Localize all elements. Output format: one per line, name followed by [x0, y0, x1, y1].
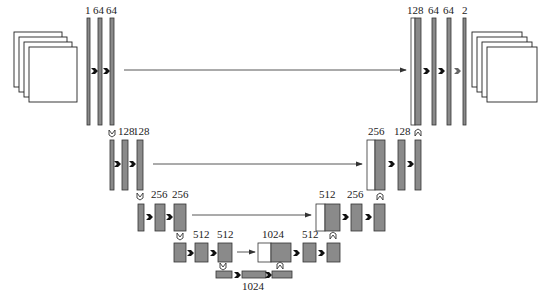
conv-arrow-icon — [407, 161, 414, 167]
feature-map — [122, 140, 128, 190]
feature-map — [138, 204, 144, 231]
label-64b: 64 — [106, 4, 118, 16]
label-1024-bottom: 1024 — [242, 280, 265, 292]
copied-map — [258, 243, 271, 262]
feature-map — [87, 18, 90, 125]
feature-map — [447, 18, 451, 125]
level-3-decoder: 512 256 — [316, 188, 385, 231]
level-1-decoder: 128 64 64 2 — [407, 4, 468, 125]
feature-map — [415, 140, 421, 190]
feature-map — [272, 271, 292, 278]
label-256b: 256 — [172, 188, 189, 200]
feature-map — [375, 140, 385, 190]
copied-map — [316, 204, 325, 231]
up-conv-icon — [330, 232, 336, 239]
feature-map — [398, 140, 405, 190]
feature-map — [110, 18, 114, 125]
conv-arrow-icon — [129, 161, 136, 167]
conv-arrow-icon — [187, 250, 194, 256]
conv-arrow-icon — [365, 214, 372, 220]
label-64a: 64 — [93, 4, 105, 16]
feature-map — [110, 140, 114, 190]
up-conv-icon — [415, 129, 421, 136]
feature-map — [327, 243, 340, 262]
label-512c: 512 — [302, 228, 319, 240]
level-1-encoder: 1 64 64 — [85, 4, 118, 125]
conv-arrow-icon — [166, 214, 173, 220]
bottleneck: 1024 — [216, 271, 292, 292]
input-image-stack — [14, 32, 77, 102]
conv-arrow-icon — [103, 68, 110, 74]
label-1: 1 — [85, 4, 91, 16]
conv-arrow-icon — [210, 250, 217, 256]
final-conv-arrow-icon — [454, 68, 461, 74]
feature-map — [174, 243, 186, 262]
feature-map — [155, 204, 165, 231]
max-pool-down-icon — [220, 263, 226, 270]
level-3-encoder: 256 256 — [138, 188, 189, 231]
feature-map — [174, 204, 186, 231]
label-128c: 128 — [394, 125, 411, 137]
label-512: 512 — [319, 188, 336, 200]
label-128b: 128 — [133, 125, 150, 137]
feature-map — [271, 243, 291, 262]
feature-map — [432, 18, 436, 125]
feature-map — [303, 243, 316, 262]
label-64c: 64 — [428, 4, 440, 16]
label-1024: 1024 — [262, 228, 285, 240]
conv-arrow-icon — [342, 214, 349, 220]
copied-map — [367, 140, 375, 190]
output-map-stack — [472, 32, 537, 102]
conv-arrow-icon — [293, 250, 300, 256]
feature-map — [218, 243, 232, 262]
feature-map — [374, 204, 385, 231]
conv-arrow-icon — [114, 161, 121, 167]
label-512b: 512 — [217, 228, 234, 240]
unet-diagram: 1 64 64 128 64 64 2 128 128 256 128 — [0, 0, 549, 303]
label-128: 128 — [407, 4, 424, 16]
max-pool-down-icon — [177, 233, 183, 240]
conv-arrow-icon — [146, 214, 153, 220]
conv-arrow-icon — [438, 68, 445, 74]
copied-map — [411, 18, 415, 125]
level-2-encoder: 128 128 — [110, 125, 150, 190]
max-pool-down-icon — [109, 130, 115, 137]
feature-map — [98, 18, 102, 125]
label-256a: 256 — [151, 188, 168, 200]
up-conv-icon — [277, 262, 283, 269]
conv-arrow-icon — [91, 68, 98, 74]
label-64d: 64 — [443, 4, 455, 16]
conv-arrow-icon — [234, 272, 241, 278]
label-2: 2 — [462, 4, 468, 16]
label-512a: 512 — [193, 228, 210, 240]
conv-arrow-icon — [318, 250, 325, 256]
level-2-decoder: 256 128 — [367, 125, 421, 190]
label-256c: 256 — [347, 188, 364, 200]
feature-map — [216, 271, 232, 278]
max-pool-down-icon — [137, 193, 143, 200]
feature-map — [463, 18, 466, 125]
up-conv-icon — [377, 193, 383, 200]
feature-map — [325, 204, 340, 231]
conv-arrow-icon — [423, 68, 430, 74]
feature-map — [242, 271, 266, 278]
level-4-decoder: 1024 512 — [258, 228, 340, 262]
feature-map — [195, 243, 208, 262]
feature-map — [351, 204, 362, 231]
feature-map — [137, 140, 143, 190]
label-256: 256 — [368, 125, 385, 137]
conv-arrow-icon — [388, 161, 395, 167]
feature-map — [415, 18, 421, 125]
